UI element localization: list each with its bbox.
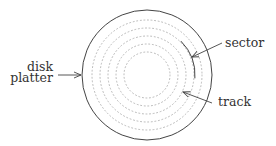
track-label: track	[218, 96, 251, 108]
track-ring-5	[124, 52, 170, 98]
sector-arc	[181, 41, 195, 78]
sector-label: sector	[225, 37, 264, 49]
track-ring-2	[100, 28, 194, 122]
tracks	[92, 20, 202, 130]
disk-platter-outline	[82, 10, 212, 140]
platter-label: platter	[10, 72, 53, 84]
sector-arrow	[192, 43, 222, 57]
track-ring-3	[108, 36, 186, 114]
track-ring-4	[116, 44, 178, 106]
